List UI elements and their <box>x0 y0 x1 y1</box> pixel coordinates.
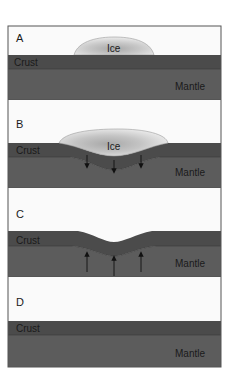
panel-a-ice-label: Ice <box>107 43 121 54</box>
panel-a-crust <box>8 55 221 69</box>
panel-b-crust-label: Crust <box>16 145 40 156</box>
isostasy-diagram: A Ice Crust Mantle B Ice Crust Mantle C … <box>0 0 234 386</box>
panel-c-mantle-label: Mantle <box>175 258 205 269</box>
panel-b: B Ice Crust Mantle <box>8 100 221 187</box>
panel-c-crust-label: Crust <box>16 235 40 246</box>
panel-d-sky <box>8 277 221 321</box>
panel-c: C Crust Mantle <box>8 188 221 276</box>
panel-d-crust-label: Crust <box>16 323 40 334</box>
panel-d-mantle-label: Mantle <box>175 348 205 359</box>
panel-d: D Crust Mantle <box>8 277 221 367</box>
panel-b-ice-label: Ice <box>107 141 121 152</box>
panel-d-letter: D <box>16 296 24 308</box>
panel-c-letter: C <box>16 208 24 220</box>
panel-a-letter: A <box>16 32 24 44</box>
panel-b-letter: B <box>16 118 23 130</box>
panel-a-crust-label: Crust <box>14 57 38 68</box>
panel-b-mantle-label: Mantle <box>175 167 205 178</box>
panel-a: A Ice Crust Mantle <box>8 26 221 99</box>
panel-a-mantle-label: Mantle <box>175 81 205 92</box>
panel-d-crust <box>8 321 221 335</box>
